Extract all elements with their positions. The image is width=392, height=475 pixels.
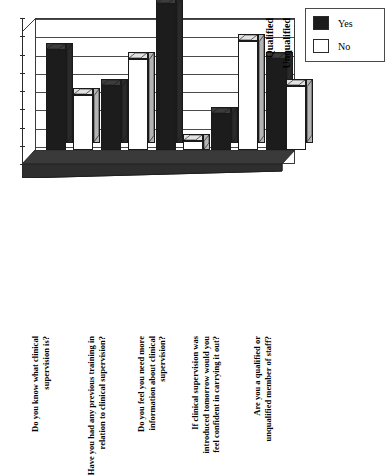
x-label-line: unqualified member of staff?	[263, 336, 274, 441]
x-label-line: relation to clinical supervision?	[97, 336, 108, 475]
x-label-line: Do you know what clinical	[30, 336, 41, 432]
bar-top-face	[101, 79, 121, 86]
x-label-line: Do you feel you need more	[136, 336, 147, 432]
x-label-group4: If clinical supervision was introduced t…	[190, 336, 222, 454]
x-label-line: supervision?	[157, 336, 168, 432]
legend-item-no: No	[313, 39, 350, 53]
bar-group3-no	[183, 141, 203, 150]
bar-group1-yes	[46, 50, 66, 150]
bar-top-face	[286, 79, 306, 86]
bar-front-face	[238, 41, 258, 151]
x-label-line: feel confident in carrying it out?	[211, 336, 222, 454]
legend-label-no: No	[338, 41, 350, 52]
bar-group5-unqualified	[286, 86, 306, 150]
y-axis: 0 2 4 6 8 10 12 14 16	[0, 0, 22, 176]
bar-top-face	[46, 43, 66, 50]
bar-group1-no	[73, 95, 93, 150]
bar-side-face	[306, 79, 313, 143]
x-label-group3: Do you feel you need more information ab…	[136, 336, 168, 432]
bar-front-face	[211, 114, 231, 151]
bar-front-face	[101, 86, 121, 150]
bar-group2-no	[128, 59, 148, 150]
inplot-label-unqualified: Unqualified	[281, 18, 292, 69]
bar-side-face	[176, 0, 183, 143]
bar-front-face	[156, 4, 176, 150]
bar-group3-yes	[156, 4, 176, 150]
bar-side-face	[148, 52, 155, 143]
legend-item-yes: Yes	[313, 16, 353, 30]
bar-side-face	[203, 134, 210, 150]
x-label-line: supervision is?	[41, 336, 52, 432]
x-label-line: information about clinical	[147, 336, 158, 432]
x-axis-labels: Do you know what clinical supervision is…	[0, 176, 392, 343]
bar-side-face	[93, 88, 100, 143]
bar-group4-yes	[211, 114, 231, 151]
bar-front-face	[286, 86, 306, 150]
bar-top-face	[128, 52, 148, 59]
bar-top-face	[183, 134, 203, 141]
bar-front-face	[266, 59, 286, 150]
bar-side-face	[121, 79, 128, 143]
x-label-line: introduced tomorrow would you	[201, 336, 212, 454]
bar-front-face	[46, 50, 66, 150]
chart-legend: Yes No	[305, 8, 385, 62]
bar-group2-yes	[101, 86, 121, 150]
bar-front-face	[128, 59, 148, 150]
x-label-group2: Have you had any previous training in re…	[86, 336, 107, 475]
bar-top-face	[211, 107, 231, 114]
x-label-group1: Do you know what clinical supervision is…	[30, 336, 51, 432]
bar-side-face	[66, 43, 73, 143]
bar-group4-no	[238, 41, 258, 151]
x-label-line: If clinical supervision was	[190, 336, 201, 454]
bar-front-face	[183, 141, 203, 150]
bar-side-face	[231, 107, 238, 144]
legend-swatch-no	[313, 39, 329, 53]
bar-top-face	[238, 34, 258, 41]
x-label-line: Have you had any previous training in	[86, 336, 97, 475]
bars-layer	[22, 18, 295, 178]
inplot-label-qualified: Qualified	[264, 18, 275, 58]
bar-group5-qualified	[266, 59, 286, 150]
legend-swatch-yes	[313, 16, 329, 30]
legend-label-yes: Yes	[338, 18, 353, 29]
bar-front-face	[73, 95, 93, 150]
x-label-line: Are you a qualified or	[252, 336, 263, 441]
bar-top-face	[73, 88, 93, 95]
x-label-group5: Are you a qualified or unqualified membe…	[252, 336, 273, 441]
